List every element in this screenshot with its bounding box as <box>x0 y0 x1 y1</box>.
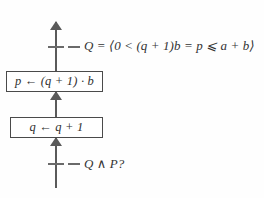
assertion-label-precondition: Q ∧ P? <box>84 156 124 172</box>
flow-arrowhead-into-assign-p <box>50 91 62 100</box>
assertion-dash-precondition <box>68 163 80 165</box>
process-box-assign-p: p ← (q + 1) · b <box>6 71 103 92</box>
assertion-label-invariant: Q = ⟨0 < (q + 1)b = p ⩽ a + b⟩ <box>84 38 255 54</box>
flow-arrowhead-into-increment-q <box>50 137 62 146</box>
process-box-increment-q: q ← q + 1 <box>10 117 103 138</box>
assertion-tick-invariant <box>48 46 64 48</box>
flowchart-diagram: Q = ⟨0 < (q + 1)b = p ⩽ a + b⟩ Q ∧ P? p … <box>0 0 264 198</box>
flow-arrowhead-exit <box>50 21 62 30</box>
assertion-dash-invariant <box>68 46 80 48</box>
assertion-tick-precondition <box>48 163 64 165</box>
